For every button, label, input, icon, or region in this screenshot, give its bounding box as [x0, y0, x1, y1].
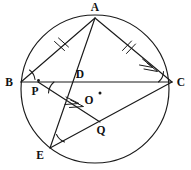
vertex-label-q: Q	[97, 124, 106, 136]
circumscribed-circle	[21, 15, 169, 163]
geometry-figure: A B C E D P Q O	[0, 0, 191, 170]
vertex-label-d: D	[76, 68, 84, 80]
segment-ac	[95, 18, 172, 82]
vertex-label-c: C	[177, 76, 185, 88]
vertex-label-e: E	[36, 149, 44, 161]
center-label-o: O	[85, 94, 94, 106]
vertex-label-a: A	[91, 1, 100, 13]
angle-arc-b	[30, 70, 36, 80]
segment-ec	[50, 82, 172, 148]
vertex-label-p: P	[31, 85, 38, 97]
geometry-canvas: A B C E D P Q O	[0, 0, 191, 170]
point-dot-p	[37, 79, 40, 82]
vertex-label-b: B	[5, 76, 13, 88]
center-dot	[99, 92, 102, 95]
tick-mark-ab	[55, 38, 69, 51]
parallel-arrow-ac	[140, 59, 158, 72]
